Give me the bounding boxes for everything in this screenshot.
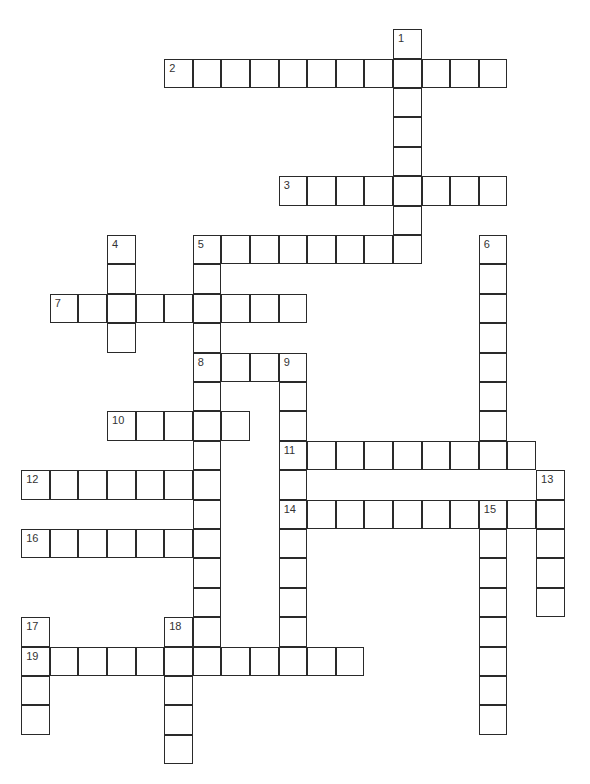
crossword-cell[interactable] [78,470,107,499]
crossword-cell[interactable] [21,676,50,705]
crossword-cell[interactable] [536,588,565,617]
crossword-cell[interactable] [479,353,508,382]
crossword-cell[interactable] [21,705,50,734]
crossword-cell[interactable] [250,647,279,676]
crossword-cell[interactable]: 17 [21,617,50,646]
crossword-cell[interactable]: 2 [164,59,193,88]
crossword-cell[interactable] [307,235,336,264]
crossword-cell[interactable] [50,470,79,499]
crossword-cell[interactable] [450,500,479,529]
crossword-cell[interactable] [221,647,250,676]
crossword-cell[interactable] [193,500,222,529]
crossword-cell[interactable] [279,294,308,323]
crossword-cell[interactable] [479,59,508,88]
crossword-cell[interactable] [393,176,422,205]
crossword-cell[interactable] [221,294,250,323]
crossword-cell[interactable] [479,588,508,617]
crossword-cell[interactable] [193,294,222,323]
crossword-cell[interactable] [507,500,536,529]
crossword-cell[interactable] [536,500,565,529]
crossword-cell[interactable]: 3 [279,176,308,205]
crossword-cell[interactable] [450,176,479,205]
crossword-cell[interactable] [479,294,508,323]
crossword-cell[interactable] [422,59,451,88]
crossword-cell[interactable] [279,529,308,558]
crossword-cell[interactable] [479,176,508,205]
crossword-cell[interactable] [164,735,193,764]
crossword-cell[interactable] [536,558,565,587]
crossword-cell[interactable] [393,88,422,117]
crossword-cell[interactable] [164,676,193,705]
crossword-cell[interactable] [193,264,222,293]
crossword-cell[interactable] [279,588,308,617]
crossword-cell[interactable] [336,176,365,205]
crossword-cell[interactable] [364,441,393,470]
crossword-cell[interactable] [193,647,222,676]
crossword-cell[interactable] [136,411,165,440]
crossword-cell[interactable] [364,176,393,205]
crossword-cell[interactable] [307,647,336,676]
crossword-cell[interactable] [107,323,136,352]
crossword-cell[interactable]: 16 [21,529,50,558]
crossword-cell[interactable] [479,705,508,734]
crossword-cell[interactable] [336,235,365,264]
crossword-cell[interactable]: 15 [479,500,508,529]
crossword-cell[interactable] [393,59,422,88]
crossword-cell[interactable] [78,294,107,323]
crossword-cell[interactable] [422,500,451,529]
crossword-cell[interactable] [107,264,136,293]
crossword-cell[interactable] [221,411,250,440]
crossword-cell[interactable] [78,529,107,558]
crossword-cell[interactable] [479,558,508,587]
crossword-cell[interactable] [250,353,279,382]
crossword-cell[interactable] [164,647,193,676]
crossword-cell[interactable]: 9 [279,353,308,382]
crossword-cell[interactable] [479,647,508,676]
crossword-cell[interactable] [107,470,136,499]
crossword-cell[interactable] [479,676,508,705]
crossword-cell[interactable]: 11 [279,441,308,470]
crossword-cell[interactable] [50,647,79,676]
crossword-cell[interactable] [364,500,393,529]
crossword-cell[interactable] [250,59,279,88]
crossword-cell[interactable]: 10 [107,411,136,440]
crossword-cell[interactable] [450,441,479,470]
crossword-cell[interactable] [193,59,222,88]
crossword-cell[interactable] [107,529,136,558]
crossword-cell[interactable] [107,294,136,323]
crossword-cell[interactable] [250,294,279,323]
crossword-cell[interactable] [450,59,479,88]
crossword-cell[interactable] [136,294,165,323]
crossword-cell[interactable]: 12 [21,470,50,499]
crossword-cell[interactable] [336,500,365,529]
crossword-cell[interactable] [50,529,79,558]
crossword-cell[interactable] [536,529,565,558]
crossword-cell[interactable] [307,441,336,470]
crossword-cell[interactable]: 7 [50,294,79,323]
crossword-cell[interactable] [136,470,165,499]
crossword-cell[interactable] [479,323,508,352]
crossword-cell[interactable] [279,558,308,587]
crossword-cell[interactable]: 1 [393,29,422,58]
crossword-cell[interactable] [279,59,308,88]
crossword-cell[interactable] [221,235,250,264]
crossword-cell[interactable] [479,264,508,293]
crossword-cell[interactable]: 4 [107,235,136,264]
crossword-cell[interactable] [336,441,365,470]
crossword-cell[interactable] [193,588,222,617]
crossword-cell[interactable] [364,59,393,88]
crossword-cell[interactable] [279,647,308,676]
crossword-cell[interactable] [164,705,193,734]
crossword-cell[interactable] [479,441,508,470]
crossword-cell[interactable] [507,441,536,470]
crossword-cell[interactable] [393,117,422,146]
crossword-cell[interactable] [193,382,222,411]
crossword-cell[interactable] [279,411,308,440]
crossword-cell[interactable]: 19 [21,647,50,676]
crossword-cell[interactable] [193,441,222,470]
crossword-cell[interactable] [393,147,422,176]
crossword-cell[interactable] [164,529,193,558]
crossword-cell[interactable] [279,470,308,499]
crossword-cell[interactable] [307,500,336,529]
crossword-cell[interactable] [279,382,308,411]
